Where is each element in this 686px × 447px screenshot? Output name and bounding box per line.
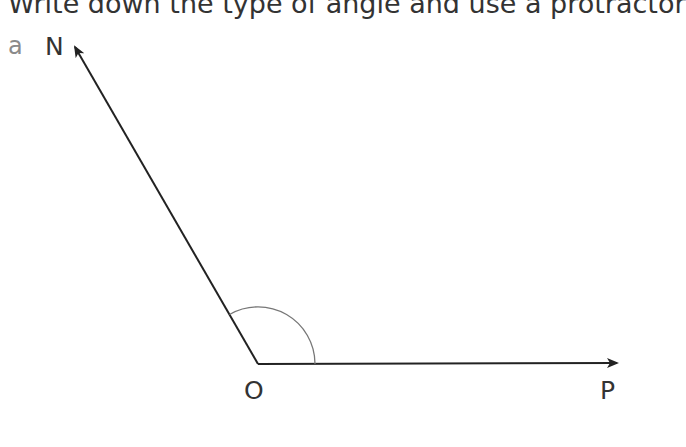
point-label-O: O [244,376,264,405]
point-label-P: P [600,376,615,405]
ray-OP [258,363,617,364]
point-label-N: N [45,32,64,61]
ray-ON [75,47,258,364]
